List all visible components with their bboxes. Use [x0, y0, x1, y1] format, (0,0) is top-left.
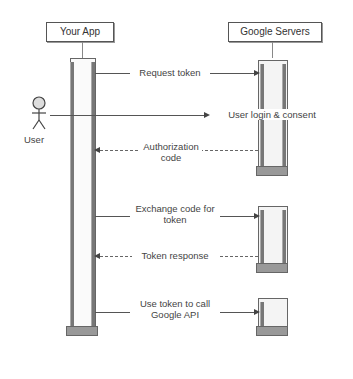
- arrowhead-icon: [254, 213, 260, 219]
- arrowhead-icon: [254, 70, 260, 76]
- msg-token-response: Token response: [132, 250, 218, 261]
- google-lifeline-2b: [282, 210, 286, 266]
- msg-user-login-line: [50, 115, 205, 116]
- participant-label: Google Servers: [240, 26, 309, 37]
- msg-use-token: Use token to call Google API: [130, 298, 220, 320]
- msg-request-token: Request token: [130, 67, 210, 78]
- app-lifeline-left: [70, 62, 74, 328]
- msg-authorization-code: Authorization code: [140, 141, 202, 163]
- user-actor: [28, 96, 50, 136]
- user-label: User: [24, 134, 44, 145]
- google-head-connector: [272, 42, 273, 58]
- arrowhead-icon: [204, 112, 210, 118]
- person-icon: [28, 96, 50, 132]
- google-endcap-3: [256, 326, 288, 336]
- google-endcap-1: [256, 166, 288, 176]
- msg-exchange-code: Exchange code for token: [130, 203, 220, 225]
- participant-your-app: Your App: [46, 22, 114, 42]
- msg-user-login-consent: User login & consent: [212, 109, 332, 120]
- participant-label: Your App: [60, 26, 100, 37]
- app-lifeline-right: [91, 62, 95, 328]
- arrowhead-icon: [94, 147, 100, 153]
- arrowhead-icon: [94, 253, 100, 259]
- google-endcap-2: [256, 263, 288, 273]
- arrowhead-icon: [254, 309, 260, 315]
- google-lifeline-2a: [260, 210, 264, 266]
- app-endcap: [66, 326, 98, 336]
- app-head-connector: [82, 42, 83, 58]
- participant-google-servers: Google Servers: [228, 22, 322, 42]
